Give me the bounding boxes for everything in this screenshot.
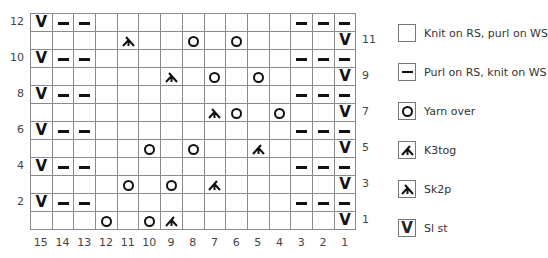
chart-cell — [96, 140, 118, 158]
chart-cell — [117, 14, 139, 32]
chart-cell — [247, 176, 269, 194]
chart-cell — [269, 86, 291, 104]
column-label: 5 — [247, 236, 269, 249]
dash-icon — [339, 130, 350, 133]
chart-cell — [204, 50, 226, 68]
chart-cell — [139, 212, 161, 230]
chart-cell — [312, 158, 334, 176]
v-icon: V — [339, 31, 351, 49]
dash-icon — [339, 166, 350, 169]
chart-cell — [139, 68, 161, 86]
chart-cell — [52, 32, 74, 50]
chart-row-8: V — [31, 86, 356, 104]
chart-cell — [139, 32, 161, 50]
chart-cell — [161, 14, 183, 32]
dash-icon — [339, 58, 350, 61]
chart-cell — [161, 32, 183, 50]
chart-cell — [182, 32, 204, 50]
chart-cell — [74, 122, 96, 140]
chart-row-6: V — [31, 122, 356, 140]
chart-cell — [182, 122, 204, 140]
v-icon: V — [339, 67, 351, 85]
circle-icon — [253, 72, 264, 83]
v-icon: V — [36, 157, 48, 175]
chart-cell: V — [334, 32, 356, 50]
legend-item-sk2p: Sk2p — [398, 180, 548, 198]
chart-cell — [96, 194, 118, 212]
chart-cell — [291, 104, 313, 122]
v-icon: V — [36, 121, 48, 139]
chart-cell — [204, 122, 226, 140]
chart-cell — [139, 158, 161, 176]
dash-icon — [79, 202, 90, 205]
chart-cell — [269, 212, 291, 230]
chart-cell — [161, 176, 183, 194]
chart-cell — [161, 50, 183, 68]
chart-cell — [204, 86, 226, 104]
chart-cell — [291, 14, 313, 32]
chart-cell — [291, 194, 313, 212]
chart-cell — [161, 212, 183, 230]
chart-cell — [247, 32, 269, 50]
chart-cell — [291, 140, 313, 158]
knitting-chart-grid: VVVVVVVVVVVV — [30, 13, 356, 230]
chart-cell: V — [31, 158, 53, 176]
chart-cell — [204, 68, 226, 86]
chart-cell — [247, 140, 269, 158]
chart-cell — [312, 176, 334, 194]
chart-cell — [291, 50, 313, 68]
chart-row-12: V — [31, 14, 356, 32]
chart-cell — [31, 68, 53, 86]
row-label: 2 — [4, 195, 24, 208]
chart-cell — [139, 86, 161, 104]
chart-cell — [291, 32, 313, 50]
chart-cell — [269, 32, 291, 50]
column-label: 15 — [30, 236, 52, 249]
sk2p-icon — [398, 180, 416, 198]
chart-cell — [52, 68, 74, 86]
chart-row-1: V — [31, 212, 356, 230]
chart-cell — [74, 86, 96, 104]
chart-cell — [96, 50, 118, 68]
chart-cell — [312, 212, 334, 230]
circle-icon — [166, 180, 177, 191]
chart-cell — [139, 140, 161, 158]
row-label: 4 — [4, 159, 24, 172]
chart-cell — [52, 194, 74, 212]
chart-cell — [291, 212, 313, 230]
chart-cell — [334, 86, 356, 104]
chart-cell — [204, 176, 226, 194]
v-icon: V — [339, 175, 351, 193]
chart-cell — [96, 212, 118, 230]
dash-icon — [296, 130, 307, 133]
legend-item-purl: Purl on RS, knit on WS — [398, 63, 548, 81]
chart-cell — [52, 158, 74, 176]
chart-cell — [161, 122, 183, 140]
legend-item-slip-stitch: V Sl st — [398, 219, 548, 237]
k3tog-icon — [252, 143, 265, 155]
circle-icon — [101, 216, 112, 227]
empty-box-icon — [398, 24, 416, 42]
chart-cell — [74, 14, 96, 32]
column-label: 6 — [225, 236, 247, 249]
chart-cell — [204, 32, 226, 50]
chart-cell — [226, 50, 248, 68]
chart-cell — [117, 122, 139, 140]
chart-cell — [291, 68, 313, 86]
chart-cell — [334, 194, 356, 212]
dash-icon — [296, 58, 307, 61]
chart-cell: V — [334, 68, 356, 86]
chart-cell — [182, 104, 204, 122]
column-label: 12 — [95, 236, 117, 249]
chart-cell — [204, 194, 226, 212]
chart-cell — [269, 158, 291, 176]
chart-row-10: V — [31, 50, 356, 68]
chart-cell — [117, 140, 139, 158]
dash-icon — [296, 94, 307, 97]
dash-icon — [79, 58, 90, 61]
circle-icon — [209, 72, 220, 83]
chart-cell — [269, 140, 291, 158]
chart-cell — [247, 14, 269, 32]
v-icon: V — [339, 139, 351, 157]
chart-cell — [269, 176, 291, 194]
